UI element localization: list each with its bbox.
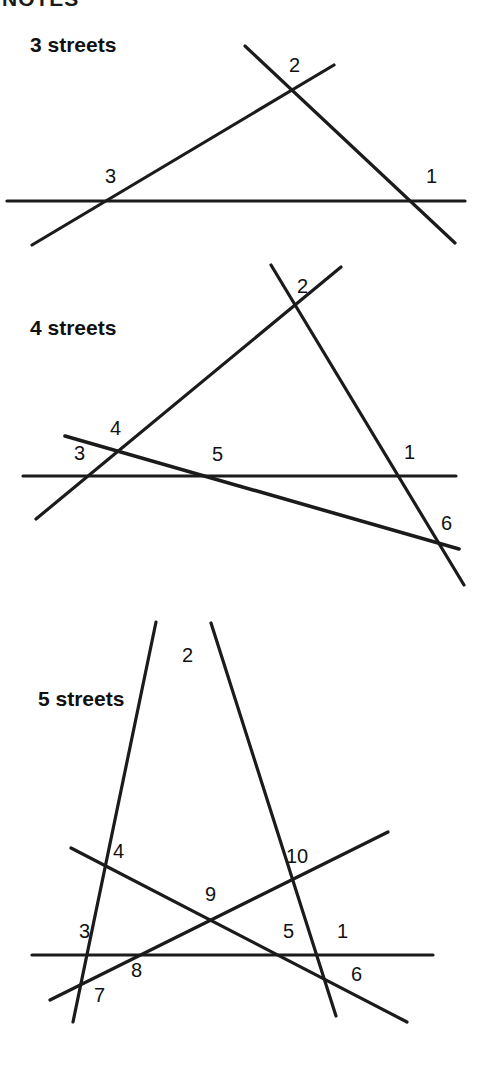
street-lines-group <box>23 265 464 585</box>
intersection-label-3: 3 <box>79 920 90 942</box>
rising-street <box>32 65 334 245</box>
intersection-labels-group: 1 2 3 4 5 6 <box>74 275 452 534</box>
figure-caption: 3 streets <box>30 33 116 56</box>
figure-three-streets: 3 streets 1 2 3 <box>0 30 500 255</box>
figure-four-streets: 4 streets 1 2 3 4 5 6 <box>0 255 500 600</box>
intersection-label-3: 3 <box>105 165 116 187</box>
falling-street <box>271 265 464 585</box>
right-falling-street <box>211 623 336 1016</box>
intersection-label-2: 2 <box>297 275 308 297</box>
intersection-labels-group: 1 2 3 <box>105 54 437 187</box>
intersection-label-10: 10 <box>286 845 308 867</box>
page-header: NOTES <box>0 0 500 10</box>
intersection-label-4: 4 <box>110 417 121 439</box>
intersection-label-9: 9 <box>205 883 216 905</box>
gentle-street <box>65 436 459 549</box>
intersection-label-5: 5 <box>212 443 223 465</box>
intersection-label-6: 6 <box>441 512 452 534</box>
intersection-label-2: 2 <box>289 54 300 76</box>
street-lines-group <box>7 46 465 245</box>
intersection-label-4: 4 <box>113 840 124 862</box>
figure-caption: 4 streets <box>30 316 116 339</box>
intersection-label-8: 8 <box>131 959 142 981</box>
descending-street <box>71 848 407 1022</box>
figure-five-streets: 5 streets 1 2 3 4 5 6 7 8 9 10 <box>0 600 500 1066</box>
left-rising-street <box>73 622 156 1022</box>
falling-street <box>245 46 455 243</box>
intersection-label-2: 2 <box>182 644 193 666</box>
intersection-label-6: 6 <box>351 963 362 985</box>
intersection-label-1: 1 <box>426 165 437 187</box>
page-canvas: NOTES 3 streets 1 2 3 4 <box>0 0 500 1066</box>
figure-caption: 5 streets <box>38 687 124 710</box>
header-title: NOTES <box>0 0 500 10</box>
ascending-street <box>50 832 388 1000</box>
intersection-label-1: 1 <box>337 920 348 942</box>
intersection-label-1: 1 <box>404 441 415 463</box>
intersection-label-5: 5 <box>283 920 294 942</box>
intersection-label-7: 7 <box>94 984 105 1006</box>
street-lines-group <box>32 622 433 1022</box>
intersection-label-3: 3 <box>74 442 85 464</box>
